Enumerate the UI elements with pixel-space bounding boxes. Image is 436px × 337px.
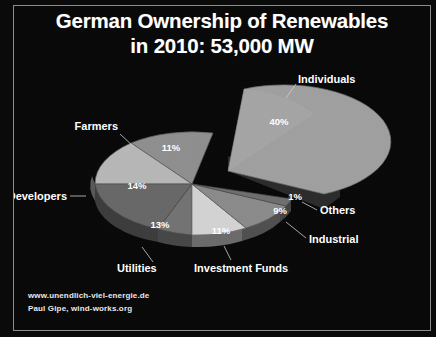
credit-author-line: Paul Gipe, wind-works.org: [28, 302, 149, 315]
credits-block: www.unendlich-viel-energie.de Paul Gipe,…: [28, 289, 149, 315]
leader-utilities: [142, 247, 153, 262]
label-individuals: Individuals: [298, 73, 355, 85]
value-label-developers: 14%: [127, 180, 147, 191]
value-label-farmers: 11%: [162, 142, 181, 153]
label-industrial: Industrial: [309, 233, 359, 245]
value-label-others: 1%: [288, 191, 302, 202]
label-farmers: Farmers: [75, 120, 118, 132]
label-investment-funds: Investment Funds: [194, 262, 288, 274]
label-developers: Developers: [14, 190, 67, 202]
leader-investment-funds: [224, 246, 231, 260]
label-others: Others: [320, 204, 355, 216]
chart-title-line2: in 2010: 53,000 MW: [14, 33, 430, 58]
value-label-investment-funds: 11%: [212, 225, 231, 236]
chart-title-line1: German Ownership of Renewables: [14, 8, 430, 33]
label-utilities: Utilities: [117, 262, 157, 274]
value-label-utilities: 13%: [150, 219, 170, 230]
leader-industrial: [286, 222, 306, 238]
credit-source-url: www.unendlich-viel-energie.de: [28, 289, 149, 302]
value-label-individuals: 40%: [269, 116, 289, 127]
wall-developers-left: [90, 176, 95, 201]
chart-title: German Ownership of Renewables in 2010: …: [14, 8, 430, 58]
value-label-industrial: 9%: [273, 205, 287, 216]
chart-frame: 40% 1% 9% 11% 13% 14% 11% Individuals: [0, 0, 436, 337]
